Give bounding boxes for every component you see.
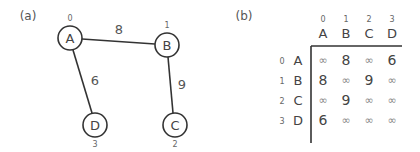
cell-0-0: ∞ [318, 54, 327, 67]
node-index-d: 3 [92, 140, 97, 149]
row-label-b: B [294, 73, 303, 88]
cell-3-3: ∞ [387, 114, 396, 127]
edge-a-b [82, 39, 155, 44]
edge-a-d [73, 50, 92, 113]
row-label-c: C [293, 93, 302, 108]
cell-1-0: 8 [319, 72, 328, 88]
panel-label-b: (b) [236, 9, 253, 23]
col-index-1: 1 [343, 15, 348, 24]
cell-2-0: ∞ [318, 94, 327, 107]
row-index-3: 3 [279, 117, 284, 126]
cell-2-1: 9 [342, 92, 351, 108]
node-label-c: C [170, 118, 179, 133]
node-label-b: B [163, 38, 172, 53]
col-label-c: C [364, 26, 373, 41]
edge-weight-b-c: 9 [178, 77, 186, 92]
row-index-1: 1 [279, 77, 284, 86]
cell-0-2: ∞ [364, 54, 373, 67]
row-label-d: D [293, 113, 303, 128]
row-index-0: 0 [279, 57, 284, 66]
node-index-c: 2 [172, 140, 177, 149]
edge-b-c [168, 57, 173, 113]
col-index-0: 0 [320, 15, 325, 24]
cell-1-1: ∞ [341, 74, 350, 87]
cell-1-3: ∞ [387, 74, 396, 87]
col-label-a: A [319, 26, 328, 41]
cell-3-0: 6 [319, 112, 328, 128]
node-index-a: 0 [67, 14, 72, 23]
edge-weight-a-b: 8 [115, 22, 123, 37]
panel-label-a: (a) [20, 9, 37, 23]
cell-1-2: 9 [365, 72, 374, 88]
node-label-a: A [66, 31, 75, 46]
cell-0-1: 8 [342, 52, 351, 68]
col-index-2: 2 [366, 15, 371, 24]
col-index-3: 3 [389, 15, 394, 24]
node-label-d: D [90, 118, 100, 133]
graph-drawing [0, 0, 420, 152]
node-index-b: 1 [164, 21, 169, 30]
row-index-2: 2 [279, 97, 284, 106]
cell-2-2: ∞ [364, 94, 373, 107]
col-label-b: B [342, 26, 351, 41]
cell-3-1: ∞ [341, 114, 350, 127]
cell-3-2: ∞ [364, 114, 373, 127]
row-label-a: A [294, 53, 303, 68]
cell-0-3: 6 [388, 52, 397, 68]
cell-2-3: ∞ [387, 94, 396, 107]
col-label-d: D [387, 26, 397, 41]
edge-weight-a-d: 6 [91, 73, 99, 88]
